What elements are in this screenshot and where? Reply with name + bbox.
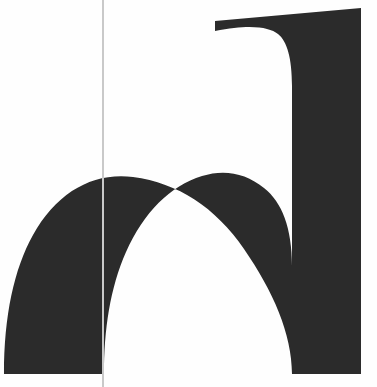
- glyph-artwork: [0, 0, 377, 387]
- artwork-canvas: Oversized dark serif lowercase letter n …: [0, 0, 377, 387]
- vertical-rule: [102, 0, 104, 387]
